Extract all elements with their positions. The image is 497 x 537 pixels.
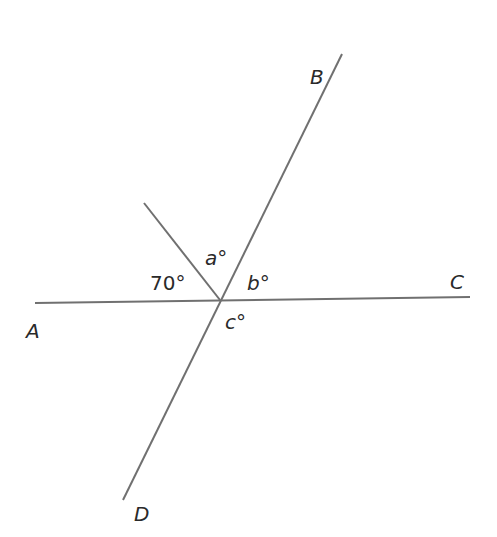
angle-label-70: 70° [150, 271, 185, 295]
point-label-b: B [310, 65, 324, 89]
line-ac [35, 297, 470, 303]
angle-diagram: A B C D 70° a° b° c° [0, 0, 497, 537]
angle-label-a: a° [205, 246, 227, 270]
angle-label-b: b° [247, 271, 270, 295]
point-label-c: C [450, 270, 464, 294]
point-label-a: A [24, 319, 40, 343]
point-label-d: D [134, 502, 149, 526]
angle-label-c: c° [225, 310, 246, 334]
